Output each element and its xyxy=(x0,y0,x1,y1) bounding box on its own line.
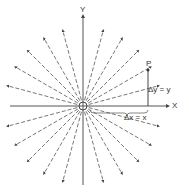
field-line xyxy=(88,67,150,103)
field-line xyxy=(63,112,82,182)
x-axis-label: X xyxy=(172,102,177,110)
field-line xyxy=(8,86,78,105)
field-line xyxy=(44,38,80,100)
dx-label: Δx = x xyxy=(124,114,146,122)
radial-field-diagram: Y X P Δy = y Δx = x xyxy=(0,0,189,193)
field-line xyxy=(85,112,104,182)
field-lines-svg xyxy=(0,0,189,193)
y-axis-label: Y xyxy=(80,6,85,14)
point-p-label: P xyxy=(146,60,151,68)
field-line xyxy=(87,51,138,102)
field-line xyxy=(28,51,79,102)
dy-label: Δy = y xyxy=(148,86,170,94)
field-line xyxy=(86,38,122,100)
field-line xyxy=(15,109,77,145)
field-line xyxy=(86,111,122,173)
field-line xyxy=(44,111,80,173)
field-line xyxy=(15,67,77,103)
field-line xyxy=(85,31,104,101)
field-line xyxy=(63,31,82,101)
field-line xyxy=(8,108,78,127)
field-line xyxy=(28,110,79,161)
point-p xyxy=(147,69,150,72)
